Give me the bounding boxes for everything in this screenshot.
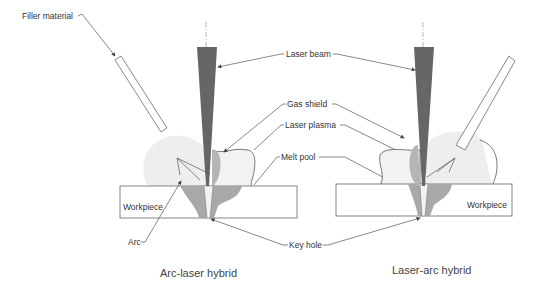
label-key-hole: Key hole bbox=[289, 240, 322, 250]
gas-shield-cloud-left bbox=[143, 136, 205, 190]
hybrid-welding-diagram: Filler material Workpiece Arc Arc-laser … bbox=[0, 0, 536, 293]
filler-wire-right bbox=[456, 56, 515, 150]
label-workpiece-left: Workpiece bbox=[123, 202, 163, 212]
gas-shield-cloud-right bbox=[425, 132, 492, 186]
label-gas-shield: Gas shield bbox=[287, 99, 327, 109]
label-arc: Arc bbox=[128, 237, 142, 247]
laser-arc-panel: Workpiece Laser-arc hybrid bbox=[336, 22, 515, 276]
label-filler-material: Filler material bbox=[22, 11, 73, 21]
filler-wire-left bbox=[115, 56, 167, 132]
caption-laser-arc-hybrid: Laser-arc hybrid bbox=[392, 264, 471, 276]
arc-laser-panel: Filler material Workpiece Arc Arc-laser … bbox=[22, 11, 297, 279]
caption-arc-laser-hybrid: Arc-laser hybrid bbox=[160, 267, 237, 279]
label-workpiece-right: Workpiece bbox=[467, 200, 507, 210]
label-laser-plasma: Laser plasma bbox=[285, 120, 336, 130]
label-laser-beam: Laser beam bbox=[286, 49, 331, 59]
label-melt-pool: Melt pool bbox=[281, 152, 316, 162]
